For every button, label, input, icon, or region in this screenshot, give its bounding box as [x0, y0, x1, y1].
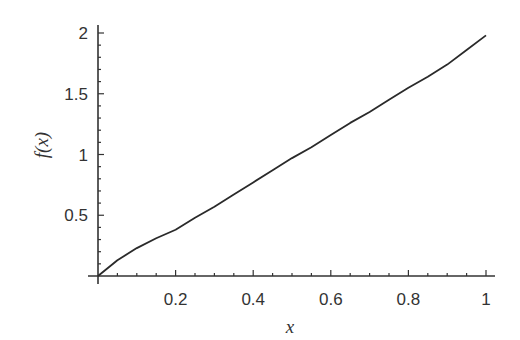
data-series — [98, 35, 486, 276]
x-tick-label: 0.4 — [241, 290, 265, 309]
y-axis-label: f(x) — [31, 132, 53, 158]
y-tick-label: 0.5 — [64, 206, 88, 225]
x-tick-label: 0.2 — [164, 290, 188, 309]
axis-ticks — [98, 33, 486, 276]
x-tick-label: 0.6 — [319, 290, 343, 309]
y-tick-label: 1 — [79, 146, 88, 165]
x-tick-label: 1 — [481, 290, 490, 309]
y-tick-label: 2 — [79, 24, 88, 43]
series-line — [98, 35, 486, 276]
x-tick-label: 0.8 — [397, 290, 421, 309]
axes — [88, 25, 495, 284]
line-chart: 0.20.40.60.810.511.52 x f(x) — [0, 0, 520, 340]
y-tick-label: 1.5 — [64, 85, 88, 104]
x-axis-label: x — [285, 316, 295, 337]
